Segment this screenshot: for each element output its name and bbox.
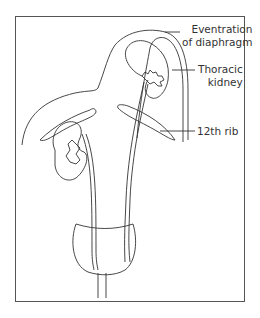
12th-rib: [118, 105, 175, 140]
thoracic-kidney-pelvis: [142, 70, 164, 86]
label-thoracic-line2: kidney: [198, 76, 243, 89]
label-eventration-line1: Eventration: [182, 23, 252, 36]
diaphragm-outline: [22, 30, 188, 145]
label-eventration-line2: of diaphragm: [182, 36, 252, 49]
ureter-right: [82, 134, 94, 270]
bladder: [73, 224, 136, 275]
label-thoracic-kidney: Thoracic kidney: [198, 63, 243, 89]
urethra: [98, 273, 106, 298]
label-thoracic-line1: Thoracic: [198, 63, 243, 76]
label-eventration: Eventration of diaphragm: [182, 23, 252, 49]
diaphragm-inner-outline: [137, 37, 183, 142]
rib-left: [40, 109, 96, 141]
label-12th-rib: 12th rib: [197, 125, 238, 138]
